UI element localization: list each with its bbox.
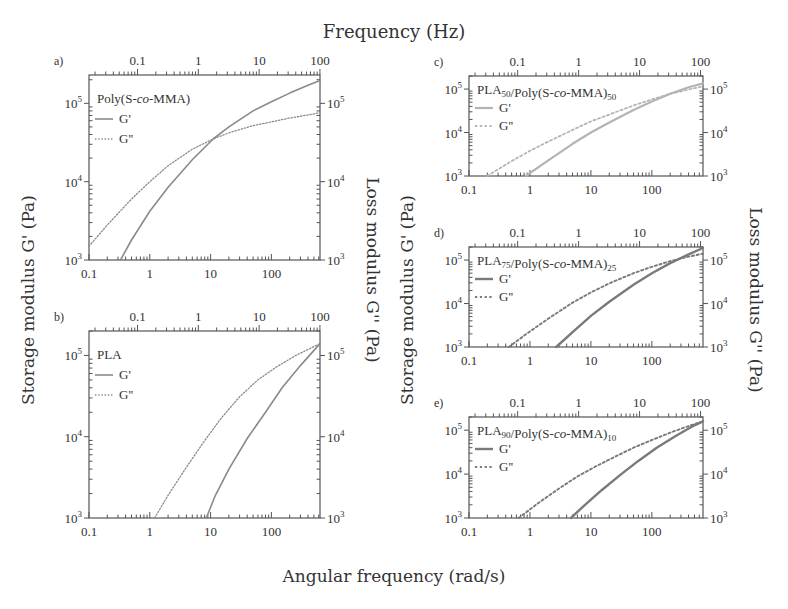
y-tick-label-right: 105 [710, 251, 728, 268]
y-tick-label-left: 103 [445, 338, 463, 355]
panel-b: 0.11101000.1110100103103104104105105b)PL… [54, 309, 345, 539]
legend-label: G'' [499, 118, 513, 133]
x-tick-label: 10 [204, 524, 217, 539]
x2-tick-label: 0.1 [510, 225, 526, 240]
legend-label: G'' [499, 459, 513, 474]
y-tick-label-left: 105 [445, 80, 463, 97]
y-tick-label-right: 104 [327, 428, 345, 445]
y-tick-label-right: 105 [710, 421, 728, 438]
y-tick-label-left: 104 [445, 124, 463, 141]
x2-tick-label: 1 [575, 225, 582, 240]
y-tick-label-left: 103 [445, 509, 463, 526]
x-tick-label: 1 [527, 182, 534, 197]
panel-d: 0.11101000.1110100103103104104105105d)PL… [434, 225, 728, 368]
x2-tick-label: 100 [691, 225, 711, 240]
x-tick-label: 1 [147, 266, 154, 281]
x-tick-label: 1 [527, 524, 534, 539]
legend-label: G' [119, 111, 131, 126]
x2-tick-label: 1 [575, 395, 582, 410]
x-tick-label: 100 [262, 524, 282, 539]
legend-title: PLA50/Poly(S-co-MMA)50 [477, 82, 617, 102]
panel-letter: d) [434, 226, 444, 240]
x-tick-label: 0.1 [81, 266, 97, 281]
legend-title: Poly(S-co-MMA) [97, 91, 190, 106]
x-tick-label: 10 [584, 524, 597, 539]
storage-modulus-curve [121, 81, 321, 260]
y-tick-label-right: 104 [710, 124, 728, 141]
x-tick-label: 0.1 [461, 182, 477, 197]
panel-a: 0.11101000.1110100103103104104105105a)Po… [54, 53, 345, 281]
panel-c: 0.11101000.1110100103103104104105105c)PL… [434, 54, 728, 197]
legend-label: G' [499, 441, 511, 456]
x-tick-label: 10 [584, 353, 597, 368]
legend-label: G'' [119, 131, 133, 146]
y-tick-label-right: 103 [710, 338, 728, 355]
y-tick-label-right: 104 [710, 465, 728, 482]
legend-label: G' [119, 367, 131, 382]
y-tick-label-right: 105 [327, 346, 345, 363]
x-tick-label: 100 [642, 524, 662, 539]
top-axis-title: Frequency (Hz) [323, 21, 465, 42]
y-tick-label-left: 104 [445, 295, 463, 312]
legend-label: G' [499, 271, 511, 286]
panel-letter: c) [434, 55, 443, 69]
y-tick-label-left: 105 [445, 421, 463, 438]
y-tick-label-right: 104 [327, 173, 345, 190]
x2-tick-label: 0.1 [129, 309, 145, 324]
left-axis-title: Storage modulus G' (Pa) [18, 195, 38, 405]
x2-tick-label: 0.1 [510, 54, 526, 69]
y-tick-label-left: 105 [445, 251, 463, 268]
y-tick-label-right: 103 [710, 509, 728, 526]
y-tick-label-left: 105 [65, 346, 83, 363]
x-tick-label: 100 [642, 353, 662, 368]
right-axis-title: Loss modulus G'' (Pa) [746, 207, 766, 392]
x2-tick-label: 100 [310, 53, 330, 68]
x-tick-label: 100 [262, 266, 282, 281]
panel-letter: e) [434, 396, 443, 410]
x2-tick-label: 100 [691, 395, 711, 410]
x-tick-label: 1 [527, 353, 534, 368]
x2-tick-label: 10 [633, 395, 646, 410]
x2-tick-label: 1 [195, 309, 202, 324]
x2-tick-label: 10 [633, 54, 646, 69]
legend-label: G'' [119, 387, 133, 402]
y-tick-label-left: 104 [65, 428, 83, 445]
x2-tick-label: 0.1 [129, 53, 145, 68]
y-tick-label-right: 105 [327, 94, 345, 111]
y-tick-label-left: 105 [65, 94, 83, 111]
storage-modulus-curve [206, 344, 320, 518]
middle-left-axis-title: Storage modulus G' (Pa) [397, 195, 417, 405]
x2-tick-label: 1 [575, 54, 582, 69]
x-tick-label: 0.1 [81, 524, 97, 539]
y-tick-label-left: 103 [65, 251, 83, 268]
y-tick-label-right: 103 [327, 509, 345, 526]
legend-title: PLA90/Poly(S-co-MMA)10 [477, 423, 617, 443]
y-tick-label-right: 103 [327, 251, 345, 268]
x2-tick-label: 0.1 [510, 395, 526, 410]
x2-tick-label: 10 [633, 225, 646, 240]
y-tick-label-left: 103 [65, 509, 83, 526]
x-tick-label: 10 [584, 182, 597, 197]
legend-title: PLA [97, 347, 122, 362]
bottom-axis-title: Angular frequency (rad/s) [282, 566, 506, 586]
y-tick-label-right: 103 [710, 167, 728, 184]
plot-frame [89, 331, 320, 518]
x-tick-label: 100 [642, 182, 662, 197]
x-tick-label: 0.1 [461, 524, 477, 539]
y-tick-label-right: 105 [710, 80, 728, 97]
x2-tick-label: 1 [195, 53, 202, 68]
y-tick-label-left: 104 [65, 173, 83, 190]
rheology-figure: Frequency (Hz) Angular frequency (rad/s)… [0, 0, 788, 609]
panels: 0.11101000.1110100103103104104105105a)Po… [54, 53, 728, 539]
x2-tick-label: 100 [310, 309, 330, 324]
legend-label: G'' [499, 289, 513, 304]
legend-label: G' [499, 100, 511, 115]
middle-right-axis-title: Loss modulus G'' (Pa) [363, 177, 383, 362]
x2-tick-label: 10 [253, 309, 266, 324]
panel-e: 0.11101000.1110100103103104104105105e)PL… [434, 395, 728, 539]
panel-letter: b) [54, 310, 64, 324]
x-tick-label: 1 [147, 524, 154, 539]
x2-tick-label: 100 [691, 54, 711, 69]
panel-letter: a) [54, 54, 63, 68]
legend-title: PLA75/Poly(S-co-MMA)25 [477, 253, 617, 273]
